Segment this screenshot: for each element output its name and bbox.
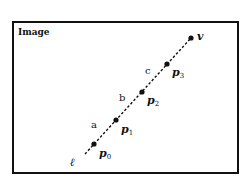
segment-label-b: b <box>119 92 125 103</box>
dashed-line-l <box>85 38 191 154</box>
frame-title: Image <box>18 27 50 37</box>
vanishing-point-v <box>188 35 193 40</box>
point-p1 <box>113 117 118 122</box>
label-p2: p2 <box>147 94 159 108</box>
label-p0: p0 <box>99 147 111 161</box>
diagram-canvas: Image p0 p1 p2 p3 v a b c ℓ <box>0 0 250 180</box>
point-p2 <box>139 89 144 94</box>
point-p0 <box>91 141 96 146</box>
segment-label-c: c <box>145 65 151 76</box>
line-label-l: ℓ <box>70 156 75 169</box>
point-p3 <box>164 61 169 66</box>
segment-label-a: a <box>91 119 97 130</box>
label-p3: p3 <box>172 66 184 80</box>
label-v: v <box>197 30 204 43</box>
image-frame <box>13 22 238 173</box>
label-p1: p1 <box>121 123 133 137</box>
